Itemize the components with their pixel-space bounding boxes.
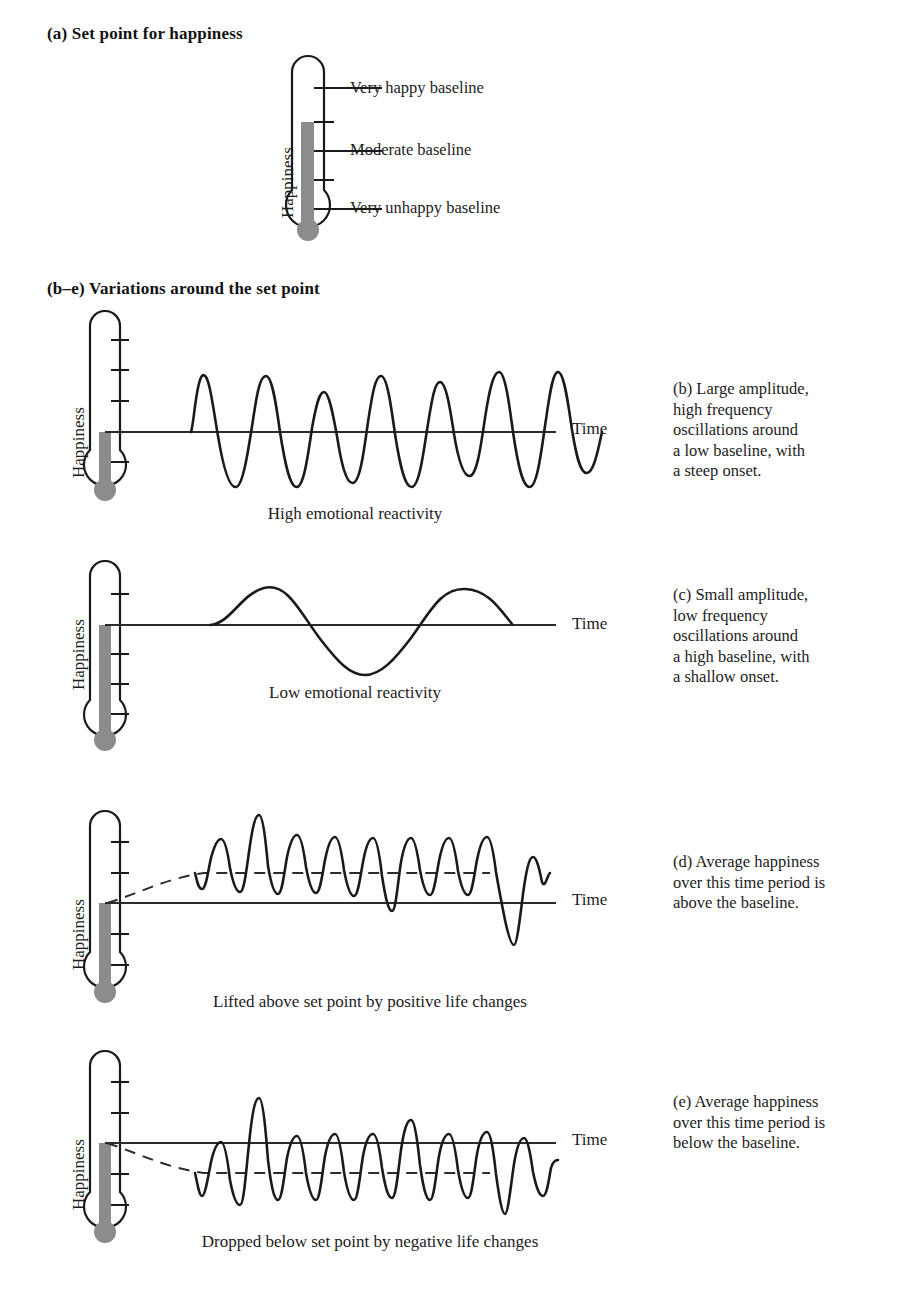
caption-line: (c) Small amplitude, [673, 585, 888, 606]
waveform-c [210, 587, 512, 675]
panel-e-caption: (e) Average happiness over this time per… [673, 1092, 888, 1154]
caption-line: a high baseline, with [673, 647, 888, 668]
caption-line: high frequency [673, 400, 888, 421]
panel-b-diagram [78, 310, 638, 520]
caption-line: above the baseline. [673, 893, 888, 914]
caption-line: a shallow onset. [673, 667, 888, 688]
caption-line: (e) Average happiness [673, 1092, 888, 1113]
thermometer-mercury [99, 625, 111, 742]
panel-e-time-label: Time [572, 1130, 607, 1150]
caption-line: low frequency [673, 606, 888, 627]
label-very-happy-baseline: Very happy baseline [350, 78, 484, 98]
panel-b-axis-label-happiness: Happiness [69, 407, 89, 478]
panel-b-caption: (b) Large amplitude, high frequency osci… [673, 379, 888, 482]
panel-b-under-label: High emotional reactivity [190, 504, 520, 524]
panel-e-axis-label-happiness: Happiness [69, 1139, 89, 1210]
waveform-d [195, 815, 550, 945]
panel-c-diagram [78, 560, 638, 770]
panel-a-diagram [230, 50, 850, 265]
panel-c-caption: (c) Small amplitude, low frequency oscil… [673, 585, 888, 688]
thermometer-mercury [99, 903, 111, 994]
caption-line: oscillations around [673, 420, 888, 441]
panel-a-axis-label-happiness: Happiness [278, 147, 298, 218]
thermometer-c [84, 561, 129, 751]
caption-line: over this time period is [673, 873, 888, 894]
thermometer-mercury [99, 432, 111, 492]
panel-b-time-label: Time [572, 419, 607, 439]
panel-c-axis-label-happiness: Happiness [69, 619, 89, 690]
waveform-b [191, 372, 602, 487]
mean-line-e [107, 1143, 490, 1173]
caption-line: (b) Large amplitude, [673, 379, 888, 400]
thermometer-mercury [301, 122, 314, 232]
thermometer-b [84, 311, 129, 501]
caption-line: over this time period is [673, 1113, 888, 1134]
panel-d-axis-label-happiness: Happiness [69, 899, 89, 970]
panel-a-heading: (a) Set point for happiness [47, 24, 243, 44]
caption-line: oscillations around [673, 626, 888, 647]
thermometer-d [84, 811, 129, 1003]
panel-c-under-label: Low emotional reactivity [190, 683, 520, 703]
label-very-unhappy-baseline: Very unhappy baseline [350, 198, 500, 218]
panel-e-under-label: Dropped below set point by negative life… [155, 1232, 585, 1252]
caption-line: (d) Average happiness [673, 852, 888, 873]
waveform-e [195, 1098, 558, 1214]
panel-d-under-label: Lifted above set point by positive life … [160, 992, 580, 1012]
panel-c-time-label: Time [572, 614, 607, 634]
panel-be-heading: (b–e) Variations around the set point [47, 279, 320, 299]
panel-d-time-label: Time [572, 890, 607, 910]
caption-line: a low baseline, with [673, 441, 888, 462]
caption-line: a steep onset. [673, 461, 888, 482]
caption-line: below the baseline. [673, 1133, 888, 1154]
figure-root: (a) Set point for happiness Happiness Ve… [0, 0, 907, 1289]
panel-d-caption: (d) Average happiness over this time per… [673, 852, 888, 914]
thermometer-e [84, 1051, 129, 1243]
thermometer-mercury [99, 1143, 111, 1234]
label-moderate-baseline: Moderate baseline [350, 140, 471, 160]
